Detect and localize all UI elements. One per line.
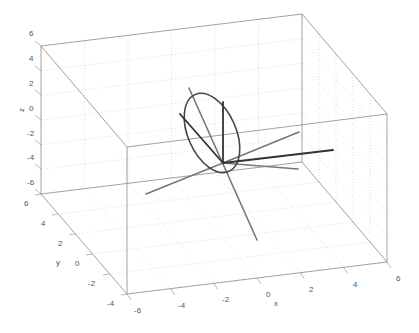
y-tick-label: -2 bbox=[88, 279, 96, 288]
x-tick-label: -6 bbox=[134, 306, 142, 315]
y-tick-label: 0 bbox=[75, 259, 80, 268]
grid-right-wall bbox=[302, 34, 387, 242]
z-tick-label: -2 bbox=[27, 129, 35, 138]
y-tick-label: -4 bbox=[107, 299, 115, 308]
data-series bbox=[146, 85, 333, 240]
x-tick-label: 0 bbox=[266, 290, 271, 299]
z-tick-label: -4 bbox=[27, 153, 35, 162]
z-axis bbox=[35, 41, 41, 194]
z-tick-label: -6 bbox=[27, 178, 35, 187]
x-tick-label: 6 bbox=[396, 274, 401, 283]
y-tick-label: 4 bbox=[41, 219, 46, 228]
y-axis bbox=[35, 194, 127, 295]
segment-7 bbox=[146, 163, 223, 194]
x-tick-label: -2 bbox=[222, 295, 230, 304]
z-tick-label: 2 bbox=[29, 79, 34, 88]
y-tick-label: 6 bbox=[24, 199, 29, 208]
y-axis-label: y bbox=[56, 258, 60, 267]
z-axis-label: z bbox=[17, 108, 26, 112]
segment-1 bbox=[180, 114, 223, 163]
z-tick-label: 0 bbox=[29, 104, 34, 113]
x-tick-label: 4 bbox=[353, 280, 358, 289]
z-tick-label: 4 bbox=[29, 54, 34, 63]
z-tick-label: 6 bbox=[29, 29, 34, 38]
grid-floor bbox=[58, 167, 370, 288]
plot-3d: 6 4 2 0 -2 -4 -6 z 6 4 2 0 -2 -4 y -6 -4… bbox=[0, 0, 419, 333]
x-axis bbox=[127, 262, 391, 300]
x-tick-label: -4 bbox=[178, 301, 186, 310]
y-tick-label: 2 bbox=[58, 239, 63, 248]
grid-back-wall bbox=[41, 19, 302, 188]
x-axis-label: x bbox=[274, 299, 278, 308]
x-tick-label: 2 bbox=[309, 285, 314, 294]
